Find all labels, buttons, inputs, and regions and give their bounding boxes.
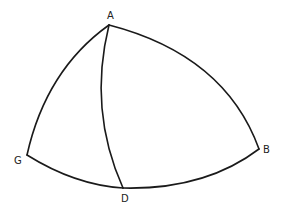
spherical-triangle-diagram: A G D B [0, 0, 282, 215]
edge-a-d [101, 25, 123, 188]
vertex-label-a: A [107, 10, 114, 21]
edge-d-b [123, 149, 259, 188]
vertex-label-g: G [14, 155, 22, 166]
vertex-label-b: B [263, 144, 270, 155]
edge-a-g [27, 25, 109, 155]
edge-a-b [109, 25, 259, 149]
edge-g-d [27, 155, 123, 188]
vertex-label-d: D [121, 193, 129, 204]
